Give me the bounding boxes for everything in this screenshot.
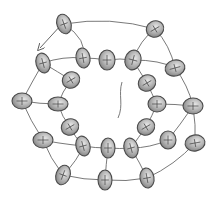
bead-icon [54, 12, 74, 36]
bead-icon [59, 69, 83, 92]
bead-icon [12, 93, 32, 109]
bead-icon [58, 116, 82, 139]
thread-segment [64, 21, 155, 29]
thread-tail-line [118, 82, 122, 118]
bead-icon [74, 47, 91, 69]
bead-icon [184, 133, 206, 152]
bead-diagram [0, 0, 214, 200]
bead-weave-illustration [0, 0, 214, 200]
beads-group [12, 12, 206, 190]
bead-icon [48, 97, 68, 111]
bead-icon [148, 96, 166, 112]
bead-icon [183, 98, 203, 114]
bead-icon [163, 58, 186, 79]
bead-icon [101, 138, 115, 158]
bead-icon [122, 137, 141, 160]
bead-icon [98, 170, 112, 190]
bead-icon [135, 72, 159, 95]
thread-tail [118, 82, 122, 118]
bead-icon [134, 116, 158, 139]
bead-icon [99, 50, 115, 70]
bead-icon [160, 131, 176, 149]
bead-icon [34, 52, 53, 75]
bead-icon [33, 132, 53, 148]
bead-icon [138, 167, 155, 189]
bead-icon [123, 48, 144, 71]
